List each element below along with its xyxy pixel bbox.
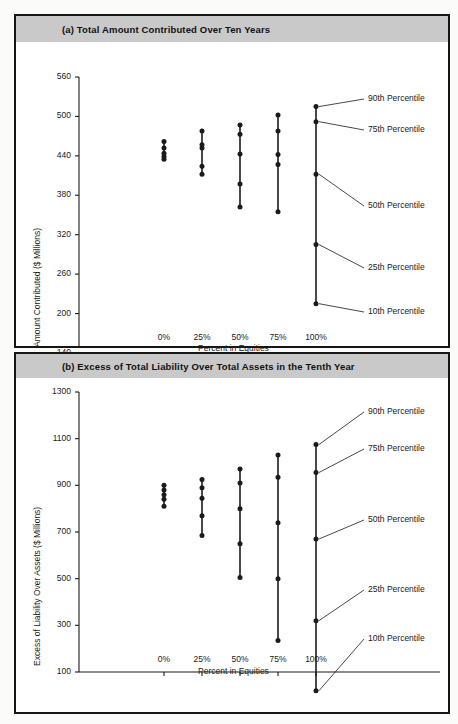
annotation-leader-line (319, 245, 364, 268)
percentile-annotation-label: 10th Percentile (368, 306, 425, 316)
data-point (238, 205, 243, 210)
data-point (238, 132, 243, 137)
y-axis-tick-label: 900 (37, 479, 71, 489)
data-point (314, 172, 319, 177)
data-point (276, 475, 281, 480)
data-point (314, 442, 319, 447)
data-point (162, 145, 167, 150)
y-axis-tick-label: 1300 (37, 386, 71, 396)
chart-b-plot-area: 10030050070090011001300Excess of Liabili… (16, 354, 448, 712)
y-axis-tick-label: 300 (37, 619, 71, 629)
data-point (238, 541, 243, 546)
percentile-annotation-label: 50th Percentile (368, 514, 425, 524)
x-axis-tick-label: 0% (144, 332, 184, 342)
percentile-annotation-label: 25th Percentile (368, 584, 425, 594)
percentile-annotation-label: 25th Percentile (368, 262, 425, 272)
data-point (162, 483, 167, 488)
data-point (200, 128, 205, 133)
y-axis-tick-label: 100 (37, 666, 71, 676)
annotation-leader-line (319, 449, 364, 473)
data-point (314, 537, 319, 542)
data-point (200, 485, 205, 490)
data-point (162, 488, 167, 493)
y-axis-tick-label: 260 (37, 268, 71, 278)
data-point (238, 122, 243, 127)
x-axis-tick-label: 25% (182, 654, 222, 664)
data-point (238, 575, 243, 580)
annotation-leader-line (319, 412, 364, 445)
data-point (238, 151, 243, 156)
y-axis-tick-label: 560 (37, 71, 71, 81)
annotation-leader-line (319, 639, 364, 691)
data-point (276, 162, 281, 167)
x-axis-tick-label: 100% (296, 654, 336, 664)
percentile-annotation-label: 75th Percentile (368, 124, 425, 134)
annotation-leader-line (319, 122, 364, 130)
chart-panel-a: (a) Total Amount Contributed Over Ten Ye… (14, 14, 450, 348)
data-point (200, 477, 205, 482)
data-point (238, 182, 243, 187)
percentile-annotation-label: 10th Percentile (368, 633, 425, 643)
y-axis-title: Amount Contributed ($ Millions) (32, 228, 42, 347)
data-point (162, 497, 167, 502)
y-axis-tick-label: 700 (37, 526, 71, 536)
annotation-leader-line (319, 99, 364, 107)
data-point (200, 145, 205, 150)
x-axis-title: Percent in Equities (198, 666, 269, 676)
data-point (276, 520, 281, 525)
data-point (276, 128, 281, 133)
chart-a-plot-area: 140200260320380440500560Amount Contribut… (16, 16, 448, 346)
annotation-leader-line (319, 174, 364, 206)
data-point (276, 576, 281, 581)
data-point (162, 157, 167, 162)
data-point (238, 467, 243, 472)
data-point (314, 688, 319, 693)
data-point (200, 513, 205, 518)
annotation-leader-line (319, 304, 364, 312)
data-point (276, 453, 281, 458)
x-axis-tick-label: 75% (258, 654, 298, 664)
x-axis-tick-label: 0% (144, 654, 184, 664)
y-axis-title: Excess of Liability Over Assets ($ Milli… (32, 507, 42, 666)
y-axis-tick-label: 200 (37, 308, 71, 318)
y-axis-tick-label: 500 (37, 110, 71, 120)
data-point (200, 172, 205, 177)
data-point (276, 209, 281, 214)
annotation-leader-line (319, 520, 364, 539)
data-point (314, 104, 319, 109)
percentile-annotation-label: 75th Percentile (368, 443, 425, 453)
y-axis-tick-label: 500 (37, 573, 71, 583)
data-point (276, 152, 281, 157)
data-point (276, 638, 281, 643)
x-axis-tick-label: 100% (296, 332, 336, 342)
data-point (314, 301, 319, 306)
x-axis-tick-label: 50% (220, 332, 260, 342)
data-point (200, 496, 205, 501)
data-point (314, 119, 319, 124)
x-axis-tick-label: 50% (220, 654, 260, 664)
data-point (200, 533, 205, 538)
y-axis-tick-label: 1100 (37, 433, 71, 443)
percentile-annotation-label: 90th Percentile (368, 406, 425, 416)
chart-a-svg (16, 16, 448, 346)
data-point (162, 139, 167, 144)
data-point (200, 164, 205, 169)
data-point (276, 113, 281, 118)
annotation-leader-line (319, 590, 364, 621)
data-point (314, 618, 319, 623)
y-axis-tick-label: 380 (37, 189, 71, 199)
data-point (238, 481, 243, 486)
percentile-annotation-label: 90th Percentile (368, 93, 425, 103)
figure-page: (a) Total Amount Contributed Over Ten Ye… (0, 0, 458, 724)
y-axis-tick-label: 320 (37, 229, 71, 239)
x-axis-tick-label: 75% (258, 332, 298, 342)
data-point (238, 506, 243, 511)
y-axis-tick-label: 440 (37, 150, 71, 160)
data-point (162, 504, 167, 509)
x-axis-tick-label: 25% (182, 332, 222, 342)
data-point (162, 492, 167, 497)
percentile-annotation-label: 50th Percentile (368, 200, 425, 210)
data-point (314, 242, 319, 247)
data-point (314, 470, 319, 475)
chart-panel-b: (b) Excess of Total Liability Over Total… (14, 352, 450, 714)
